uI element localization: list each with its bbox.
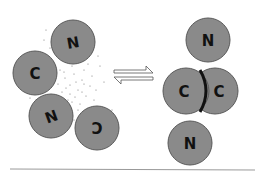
equilibrium-diagram: N C N C N C C — [0, 0, 255, 174]
svg-text:C: C — [178, 83, 189, 101]
subunit-c-1: C — [13, 51, 57, 95]
subunit-n-1: N — [51, 20, 95, 64]
svg-text:C: C — [91, 118, 102, 136]
svg-text:C: C — [213, 83, 224, 101]
svg-text:N: N — [184, 135, 197, 153]
subunit-n-bottom: N — [168, 121, 212, 165]
subunit-c-2: C — [75, 106, 119, 150]
svg-text:N: N — [202, 32, 215, 50]
equilibrium-arrows-icon — [114, 66, 153, 84]
subunit-n-2: N — [29, 94, 73, 138]
left-state: N C N C — [13, 20, 119, 150]
right-state: N C C N — [163, 18, 238, 165]
subunit-n-top: N — [186, 18, 230, 62]
svg-text:C: C — [29, 65, 40, 83]
baseline-divider — [10, 169, 255, 170]
